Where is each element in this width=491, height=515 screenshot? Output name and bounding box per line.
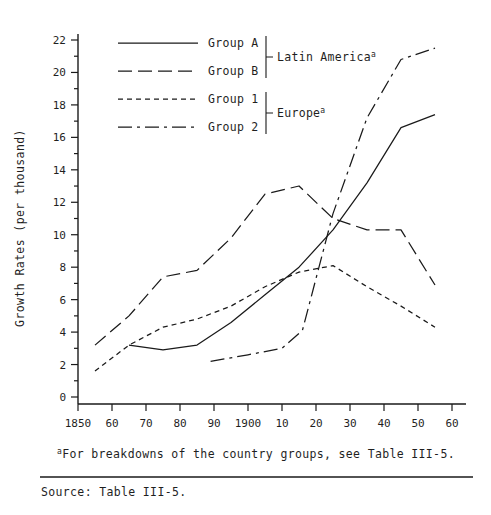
series-group-1 [95,266,435,371]
brace-europe [266,92,273,134]
x-tick-label: 90 [207,417,220,430]
y-tick-label: 6 [59,294,66,307]
y-tick-label: 10 [53,229,66,242]
y-tick-label: 8 [59,261,66,274]
y-tick-label: 20 [53,66,66,79]
chart-legend: Group AGroup BGroup 1Group 2 [118,36,259,134]
legend-label-group-2: Group 2 [208,120,259,134]
x-tick-label: 50 [411,417,424,430]
figure-container: 0246810121416182022 18506070809019001020… [0,0,491,515]
y-tick-label: 2 [59,359,66,372]
y-tick-label: 12 [53,196,66,209]
region-label-latin-america: Latin Americaa [277,50,376,64]
x-tick-label: 20 [309,417,322,430]
legend-label-group-1: Group 1 [208,92,259,106]
x-tick-label: 80 [173,417,186,430]
series-group-a [129,115,435,350]
x-tick-label: 1900 [235,417,262,430]
y-axis-tick-labels: 0246810121416182022 [53,34,67,404]
y-tick-label: 16 [53,131,66,144]
axes-group [78,34,466,404]
x-tick-label: 40 [377,417,390,430]
legend-label-group-b: Group B [208,64,259,78]
x-tick-label: 1850 [65,417,92,430]
x-tick-label: 70 [139,417,152,430]
data-series-group [95,48,435,371]
x-tick-label: 30 [343,417,356,430]
footnote: aFor breakdowns of the country groups, s… [57,447,455,461]
x-axis-ticks [78,404,452,411]
source-note: Source: Table III-5. [41,485,186,499]
y-tick-label: 4 [59,326,66,339]
x-tick-label: 10 [275,417,288,430]
brace-latin-america [266,36,273,78]
y-tick-label: 18 [53,99,66,112]
legend-label-group-a: Group A [208,36,259,50]
x-axis-tick-labels: 1850607080901900102030405060 [65,417,459,430]
x-tick-label: 60 [105,417,118,430]
y-tick-label: 14 [53,164,67,177]
growth-rates-line-chart: 0246810121416182022 18506070809019001020… [0,0,491,515]
y-axis-title: Growth Rates (per thousand) [13,129,27,327]
region-label-europe: Europea [277,106,325,120]
series-group-b [95,186,435,345]
y-tick-label: 0 [59,391,66,404]
legend-braces [266,36,273,134]
x-tick-label: 60 [445,417,458,430]
y-tick-label: 22 [53,34,66,47]
